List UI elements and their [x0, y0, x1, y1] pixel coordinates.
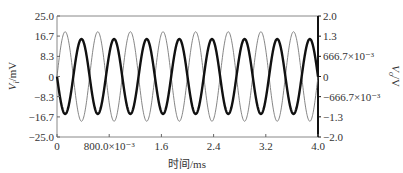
y-right-axis-title: Vo/V	[387, 65, 402, 87]
x-tick-label: 1.6	[155, 140, 169, 152]
y-left-axis-title: Vi/mV	[6, 62, 21, 91]
x-tick-label: 2.4	[207, 140, 221, 152]
x-tick-label: 3.2	[259, 140, 273, 152]
y-right-axis-ticks: 2.01.3666.7×10⁻³0−666.7×10⁻³−1.3−2.0	[318, 10, 381, 143]
y-left-tick-label: 0	[49, 71, 55, 83]
series-output-vo	[57, 39, 318, 114]
y-left-tick-label: −8.3	[34, 91, 54, 103]
x-tick-label: 0	[54, 140, 60, 152]
y-left-tick-label: −16.7	[29, 111, 55, 123]
y-right-tick-label: 2.0	[323, 10, 337, 22]
y-right-tick-label: −1.3	[323, 111, 343, 123]
y-left-tick-label: 16.7	[35, 30, 55, 42]
y-right-tick-label: −666.7×10⁻³	[323, 91, 381, 103]
y-right-tick-label: 0	[323, 71, 329, 83]
y-left-axis-ticks: 25.016.78.30−8.3−16.7−25.0	[29, 10, 60, 143]
waveform-path	[57, 39, 318, 114]
y-right-tick-label: 666.7×10⁻³	[323, 50, 375, 62]
y-left-tick-label: −25.0	[29, 131, 55, 143]
y-right-tick-label: 1.3	[323, 30, 337, 42]
svg-text:Vi/mV: Vi/mV	[6, 62, 21, 91]
y-left-tick-label: 25.0	[35, 10, 55, 22]
y-right-tick-label: −2.0	[323, 131, 343, 143]
dual-axis-waveform-chart: 0800.0×10⁻³1.62.43.24.0 25.016.78.30−8.3…	[0, 0, 403, 173]
svg-text:Vo/V: Vo/V	[387, 65, 402, 87]
y-left-tick-label: 8.3	[40, 50, 54, 62]
x-axis-title: 时间/ms	[168, 158, 206, 170]
x-tick-label: 800.0×10⁻³	[84, 140, 136, 152]
